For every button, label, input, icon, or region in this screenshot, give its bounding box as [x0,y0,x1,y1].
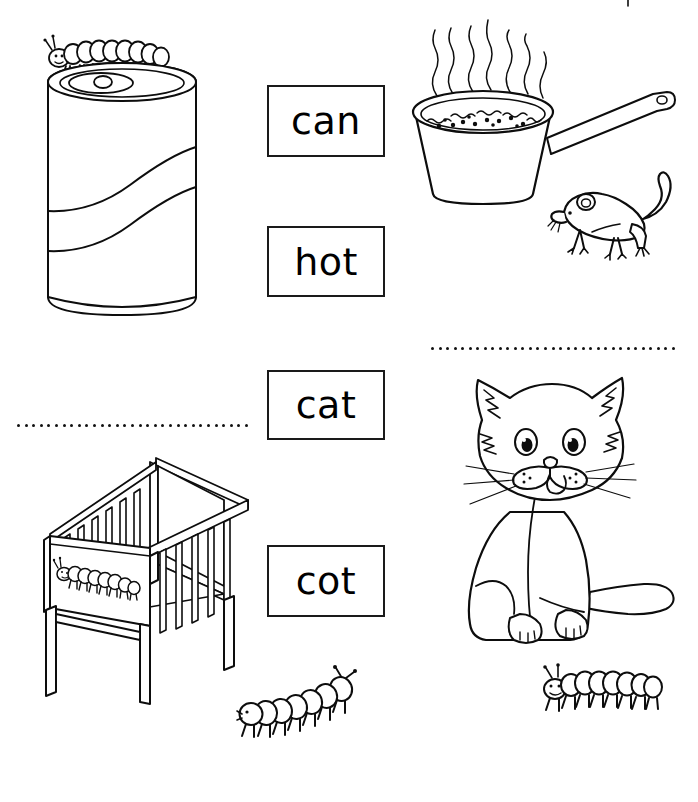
writing-dot [634,347,637,350]
word-label-cat: cat [296,386,357,424]
writing-dot [544,347,547,350]
writing-dot [70,424,73,427]
writing-dot [93,424,96,427]
writing-dot [589,347,592,350]
writing-dot [461,347,464,350]
writing-dot [552,347,555,350]
writing-dot [664,347,667,350]
writing-dot [215,424,218,427]
writing-dot [672,347,675,350]
cat-illustration [440,362,685,657]
writing-dot [439,347,442,350]
soda-can-illustration [30,25,220,330]
writing-dot [139,424,142,427]
writing-dot [657,347,660,350]
writing-dot [559,347,562,350]
writing-dot [431,347,434,350]
word-label-cot: cot [296,562,357,600]
writing-dot [17,424,20,427]
writing-dot [649,347,652,350]
writing-dot [199,424,202,427]
word-box-cot[interactable]: cot [267,545,385,617]
right-writing-line[interactable] [431,347,672,351]
writing-dot [184,424,187,427]
writing-dot [237,424,240,427]
writing-dot [101,424,104,427]
writing-dot [146,424,149,427]
writing-dot [78,424,81,427]
word-label-hot: hot [294,243,358,281]
writing-dot [245,424,248,427]
writing-dot [32,424,35,427]
writing-dot [469,347,472,350]
word-box-cat[interactable]: cat [267,370,385,440]
writing-dot [536,347,539,350]
worksheet-page: canhotcatcot [0,0,698,802]
writing-dot [230,424,233,427]
writing-dot [597,347,600,350]
writing-dot [192,424,195,427]
writing-dot [574,347,577,350]
writing-dot [454,347,457,350]
word-box-hot[interactable]: hot [267,226,385,297]
writing-dot [116,424,119,427]
writing-dot [604,347,607,350]
writing-dot [476,347,479,350]
mouse-illustration [548,168,688,263]
steam [432,20,546,98]
writing-dot [40,424,43,427]
writing-dot [47,424,50,427]
writing-dot [642,347,645,350]
writing-dot [55,424,58,427]
writing-dot [446,347,449,350]
writing-dot [131,424,134,427]
writing-dot [521,347,524,350]
word-label-can: can [291,102,361,140]
caterpillar-center-illustration [236,656,371,741]
writing-dot [491,347,494,350]
writing-dot [25,424,28,427]
writing-dot [85,424,88,427]
writing-dot [169,424,172,427]
writing-dot [207,424,210,427]
writing-dot [108,424,111,427]
writing-dot [506,347,509,350]
word-box-can[interactable]: can [267,85,385,157]
writing-dot [222,424,225,427]
caterpillar-right-illustration [536,658,671,723]
writing-dot [154,424,157,427]
writing-dot [177,424,180,427]
writing-dot [161,424,164,427]
writing-dot [63,424,66,427]
writing-dot [529,347,532,350]
writing-dot [499,347,502,350]
writing-dot [612,347,615,350]
writing-dot [484,347,487,350]
writing-dot [627,347,630,350]
writing-dot [582,347,585,350]
writing-dot [514,347,517,350]
writing-dot [123,424,126,427]
cot-illustration [28,448,256,696]
left-writing-line[interactable] [17,424,245,428]
writing-dot [619,347,622,350]
writing-dot [567,347,570,350]
